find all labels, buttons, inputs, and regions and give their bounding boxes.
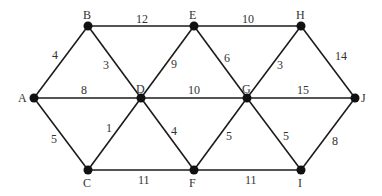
edge-weight-C-F: 11: [138, 173, 150, 187]
node-label-F: F: [189, 176, 196, 190]
node-label-D: D: [136, 82, 145, 96]
edge-F-G: [194, 98, 247, 170]
edge-weight-E-D: 9: [171, 57, 177, 71]
edge-weight-F-I: 11: [245, 173, 257, 187]
edges: [34, 26, 355, 170]
node-J: [351, 94, 360, 103]
node-label-I: I: [298, 176, 302, 190]
edge-weight-F-G: 5: [226, 129, 232, 143]
node-A: [30, 94, 39, 103]
node-E: [190, 22, 199, 31]
edge-weight-H-J: 14: [335, 49, 347, 63]
edge-weight-A-B: 4: [52, 48, 58, 62]
edge-weight-G-J: 15: [297, 83, 309, 97]
node-label-J: J: [361, 91, 366, 105]
edge-A-C: [34, 98, 88, 170]
graph-diagram: 48512391063141015141155811 ABEHDGJCFI: [0, 0, 382, 196]
edge-weight-H-G: 3: [277, 58, 283, 72]
edge-A-B: [34, 26, 88, 98]
edge-weight-B-E: 12: [136, 12, 148, 26]
edge-E-D: [141, 26, 194, 98]
edge-B-D: [88, 26, 141, 98]
edge-weight-D-C: 1: [106, 121, 112, 135]
edge-weight-B-D: 3: [103, 58, 109, 72]
node-label-B: B: [83, 8, 91, 22]
edge-H-G: [247, 26, 301, 98]
edge-weight-E-G: 6: [224, 51, 230, 65]
edge-weight-D-G: 10: [188, 83, 200, 97]
edge-weight-A-C: 5: [51, 132, 57, 146]
node-label-E: E: [189, 8, 196, 22]
edge-weight-A-D: 8: [81, 83, 87, 97]
node-I: [297, 166, 306, 175]
node-labels: ABEHDGJCFI: [18, 8, 366, 190]
node-C: [84, 166, 93, 175]
node-label-A: A: [18, 91, 27, 105]
node-label-G: G: [242, 82, 251, 96]
node-label-C: C: [83, 176, 91, 190]
node-label-H: H: [296, 8, 305, 22]
node-F: [190, 166, 199, 175]
edge-D-F: [141, 98, 194, 170]
edge-I-J: [301, 98, 355, 170]
edge-G-I: [247, 98, 301, 170]
edge-D-C: [88, 98, 141, 170]
edge-weight-E-H: 10: [242, 12, 254, 26]
edge-weight-G-I: 5: [283, 129, 289, 143]
edge-weight-D-F: 4: [171, 124, 177, 138]
node-H: [297, 22, 306, 31]
edge-weight-I-J: 8: [332, 134, 338, 148]
edge-E-G: [194, 26, 247, 98]
node-B: [84, 22, 93, 31]
